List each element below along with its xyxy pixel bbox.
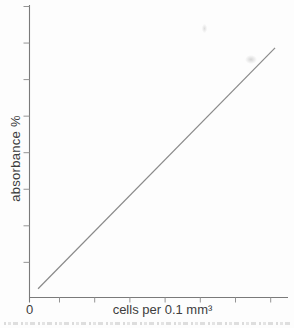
cropped-caption-fragment — [4, 321, 290, 328]
x-axis-label: cells per 0.1 mm³ — [105, 302, 220, 317]
x-axis-origin-tick-label: 0 — [22, 302, 37, 317]
scan-smudge — [245, 55, 257, 64]
calibration-line — [38, 48, 275, 289]
y-axis-label: absorbance % — [8, 99, 23, 219]
scan-smudge — [202, 24, 207, 33]
calibration-chart: absorbance % 0 cells per 0.1 mm³ — [0, 0, 294, 328]
plot-canvas — [0, 0, 294, 328]
